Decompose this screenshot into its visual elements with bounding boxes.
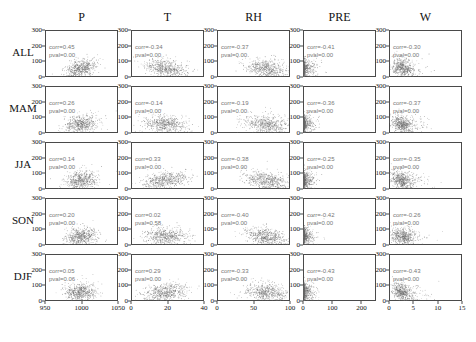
scatter-panel-all-p: 0100200300corr=0.45pval=0.00 bbox=[45, 30, 118, 77]
y-tick-label: 200 bbox=[376, 98, 387, 106]
y-tick-label: 300 bbox=[290, 194, 301, 202]
y-tick-label: 100 bbox=[32, 169, 43, 177]
x-tick-label: 100 bbox=[285, 304, 296, 312]
scatter-points bbox=[45, 30, 118, 77]
y-tick-label: 300 bbox=[290, 26, 301, 34]
y-tick-label: 200 bbox=[376, 42, 387, 50]
y-tick-label: 100 bbox=[204, 113, 215, 121]
scatter-plot-matrix: PTRHPREWALLMAMJJASONDJF0100200300corr=0.… bbox=[0, 0, 476, 342]
x-tick-mark bbox=[204, 301, 205, 304]
x-tick-mark bbox=[361, 301, 362, 304]
y-tick-label: 300 bbox=[118, 138, 129, 146]
y-tick-label: 300 bbox=[376, 194, 387, 202]
x-tick-mark bbox=[389, 301, 390, 304]
y-tick-label: 300 bbox=[376, 250, 387, 258]
column-header-pre: PRE bbox=[303, 10, 376, 25]
scatter-points bbox=[131, 30, 204, 77]
y-tick-label: 100 bbox=[118, 281, 129, 289]
y-tick-label: 100 bbox=[290, 225, 301, 233]
y-tick-label: 100 bbox=[376, 281, 387, 289]
y-tick-label: 100 bbox=[204, 281, 215, 289]
scatter-points bbox=[131, 254, 204, 301]
y-tick-label: 100 bbox=[376, 113, 387, 121]
x-tick-label: 1050 bbox=[111, 304, 125, 312]
x-tick-label: 0 bbox=[387, 304, 391, 312]
y-tick-label: 100 bbox=[118, 113, 129, 121]
y-tick-label: 100 bbox=[118, 169, 129, 177]
scatter-points bbox=[45, 254, 118, 301]
scatter-points bbox=[303, 86, 376, 133]
scatter-points bbox=[131, 86, 204, 133]
x-tick-label: 15 bbox=[459, 304, 466, 312]
y-tick-label: 200 bbox=[32, 210, 43, 218]
y-tick-label: 100 bbox=[32, 225, 43, 233]
x-tick-mark bbox=[118, 301, 119, 304]
y-tick-label: 100 bbox=[204, 169, 215, 177]
scatter-points bbox=[131, 198, 204, 245]
x-tick-label: 20 bbox=[164, 304, 171, 312]
y-tick-label: 300 bbox=[290, 138, 301, 146]
x-tick-mark bbox=[81, 301, 82, 304]
scatter-panel-all-rh: 0100200300corr=-0.37pval=0.00 bbox=[217, 30, 290, 77]
x-tick-label: 50 bbox=[250, 304, 257, 312]
y-tick-label: 200 bbox=[118, 98, 129, 106]
scatter-points bbox=[217, 142, 290, 189]
y-tick-label: 300 bbox=[32, 138, 43, 146]
y-tick-label: 200 bbox=[118, 266, 129, 274]
x-tick-mark bbox=[437, 301, 438, 304]
y-tick-label: 100 bbox=[204, 225, 215, 233]
y-tick-label: 200 bbox=[118, 154, 129, 162]
y-tick-label: 300 bbox=[290, 82, 301, 90]
scatter-points bbox=[131, 142, 204, 189]
y-tick-label: 100 bbox=[32, 57, 43, 65]
scatter-panel-all-t: 0100200300corr=-0.34pval=0.00 bbox=[131, 30, 204, 77]
x-tick-mark bbox=[45, 301, 46, 304]
scatter-panel-son-rh: 0100200300corr=-0.40pval=0.00 bbox=[217, 198, 290, 245]
y-tick-label: 200 bbox=[204, 42, 215, 50]
x-tick-label: 0 bbox=[301, 304, 305, 312]
y-tick-label: 300 bbox=[32, 82, 43, 90]
y-tick-label: 100 bbox=[118, 57, 129, 65]
y-tick-label: 200 bbox=[118, 42, 129, 50]
y-tick-label: 200 bbox=[32, 266, 43, 274]
scatter-panel-djf-t: 010020030002040corr=0.29pval=0.00 bbox=[131, 254, 204, 301]
y-tick-label: 100 bbox=[376, 225, 387, 233]
y-tick-label: 100 bbox=[204, 57, 215, 65]
scatter-panel-mam-pre: 0100200300corr=-0.36pval=0.00 bbox=[303, 86, 376, 133]
scatter-points bbox=[389, 86, 462, 133]
scatter-panel-mam-t: 0100200300corr=-0.14pval=0.00 bbox=[131, 86, 204, 133]
scatter-points bbox=[389, 30, 462, 77]
column-header-w: W bbox=[389, 10, 462, 25]
scatter-panel-djf-p: 010020030095010001050corr=0.05pval=0.06 bbox=[45, 254, 118, 301]
scatter-panel-jja-pre: 0100200300corr=-0.25pval=0.00 bbox=[303, 142, 376, 189]
y-tick-label: 300 bbox=[204, 82, 215, 90]
scatter-panel-all-pre: 0100200300corr=-0.41pval=0.00 bbox=[303, 30, 376, 77]
y-tick-label: 100 bbox=[290, 57, 301, 65]
y-tick-label: 200 bbox=[32, 98, 43, 106]
x-tick-label: 1000 bbox=[75, 304, 89, 312]
scatter-panel-son-pre: 0100200300corr=-0.42pval=0.00 bbox=[303, 198, 376, 245]
x-tick-mark bbox=[413, 301, 414, 304]
scatter-panel-son-p: 0100200300corr=0.20pval=0.00 bbox=[45, 198, 118, 245]
x-tick-mark bbox=[462, 301, 463, 304]
y-tick-label: 100 bbox=[32, 113, 43, 121]
scatter-points bbox=[217, 86, 290, 133]
y-tick-label: 300 bbox=[204, 194, 215, 202]
scatter-points bbox=[45, 198, 118, 245]
x-tick-mark bbox=[131, 301, 132, 304]
y-tick-label: 200 bbox=[290, 42, 301, 50]
y-tick-label: 300 bbox=[376, 26, 387, 34]
y-tick-label: 100 bbox=[118, 225, 129, 233]
x-tick-mark bbox=[253, 301, 254, 304]
x-tick-mark bbox=[290, 301, 291, 304]
x-tick-label: 5 bbox=[412, 304, 416, 312]
y-tick-label: 100 bbox=[290, 113, 301, 121]
x-tick-mark bbox=[167, 301, 168, 304]
x-tick-label: 10 bbox=[434, 304, 441, 312]
y-tick-label: 100 bbox=[290, 281, 301, 289]
y-tick-label: 200 bbox=[290, 266, 301, 274]
x-tick-label: 100 bbox=[327, 304, 338, 312]
y-tick-label: 200 bbox=[204, 210, 215, 218]
y-tick-label: 300 bbox=[376, 138, 387, 146]
x-tick-label: 40 bbox=[201, 304, 208, 312]
